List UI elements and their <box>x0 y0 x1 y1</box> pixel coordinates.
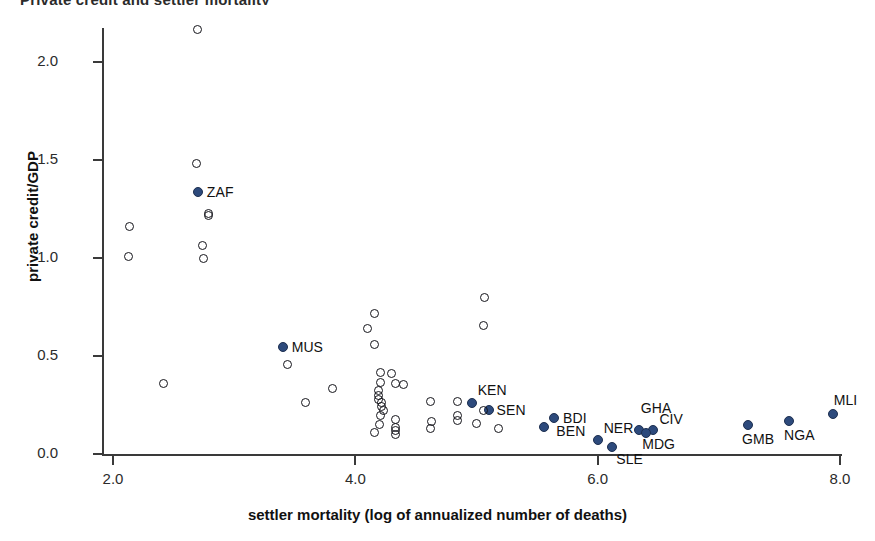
chart-title: Private credit and settler mortality <box>20 0 720 5</box>
y-axis-ticks: 0.00.51.01.52.0 <box>0 0 102 541</box>
data-point <box>328 384 337 393</box>
data-point <box>199 254 208 263</box>
data-point <box>391 430 400 439</box>
y-tick-mark <box>93 453 102 455</box>
y-tick-mark <box>93 355 102 357</box>
point-label: CIV <box>659 411 683 427</box>
data-point-highlighted <box>828 409 838 419</box>
data-point-highlighted <box>593 435 603 445</box>
x-tick-label: 6.0 <box>568 470 628 487</box>
data-point <box>426 397 435 406</box>
data-point-highlighted <box>467 398 477 408</box>
x-tick-mark <box>839 456 841 465</box>
data-point <box>301 398 310 407</box>
y-axis-title: private credit/GDP <box>24 17 41 417</box>
data-point <box>198 241 207 250</box>
point-label: ZAF <box>207 184 234 200</box>
point-label: MUS <box>292 339 323 355</box>
point-label: KEN <box>478 382 507 398</box>
x-tick-mark <box>597 456 599 465</box>
data-point <box>453 416 462 425</box>
data-point <box>453 397 462 406</box>
point-label: SEN <box>497 402 526 418</box>
x-tick-mark <box>354 456 356 465</box>
scatter-chart: Private credit and settler mortality 0.0… <box>0 0 875 541</box>
plot-area <box>102 28 840 454</box>
x-tick-label: 2.0 <box>83 470 143 487</box>
data-point <box>426 424 435 433</box>
y-tick-mark <box>93 257 102 259</box>
data-point-highlighted <box>549 413 559 423</box>
point-label: MLI <box>834 392 858 408</box>
point-label: GMB <box>742 431 774 447</box>
x-axis-title: settler mortality (log of annualized num… <box>0 506 875 523</box>
point-label: SLE <box>616 451 643 467</box>
data-point <box>370 340 379 349</box>
point-label: MDG <box>642 436 675 452</box>
data-point-highlighted <box>278 342 288 352</box>
x-axis-line <box>102 454 842 456</box>
y-tick-mark <box>93 159 102 161</box>
point-label: NGA <box>784 427 815 443</box>
point-label: BEN <box>556 423 585 439</box>
y-tick-mark <box>93 61 102 63</box>
point-label: NER <box>604 420 634 436</box>
data-point-highlighted <box>539 422 549 432</box>
data-point <box>124 252 133 261</box>
y-tick-label: 0.0 <box>12 444 58 461</box>
x-tick-label: 4.0 <box>325 470 385 487</box>
data-point <box>494 424 503 433</box>
x-tick-label: 8.0 <box>810 470 870 487</box>
data-point <box>363 324 372 333</box>
data-point-highlighted <box>743 420 753 430</box>
x-tick-mark <box>112 456 114 465</box>
